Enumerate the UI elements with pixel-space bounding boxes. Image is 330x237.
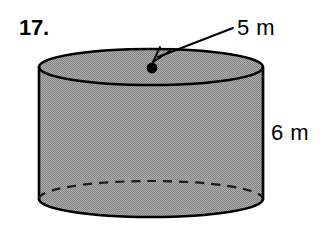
radius-tick bbox=[152, 62, 153, 66]
cylinder-drawing bbox=[0, 0, 330, 237]
geometry-figure-cylinder: 17. 5 m 6 m bbox=[0, 0, 330, 237]
radius-dimension-label: 5 m bbox=[237, 17, 275, 39]
problem-number: 17. bbox=[19, 17, 49, 39]
cylinder-lateral-surface bbox=[39, 67, 263, 217]
height-dimension-label: 6 m bbox=[271, 122, 309, 144]
